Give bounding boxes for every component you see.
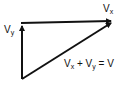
vector-sum-equation: Vx + Vy = V [64,59,114,70]
vx-arrow [21,21,111,23]
vx-label: Vx [103,4,113,15]
vy-label: Vy [4,25,14,36]
resultant-arrow [22,23,111,79]
